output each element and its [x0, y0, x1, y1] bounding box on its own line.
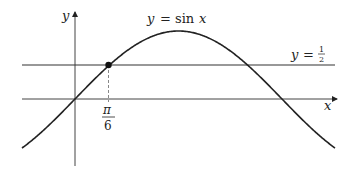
svg-text:=: = [303, 47, 314, 62]
svg-text:π: π [102, 103, 112, 117]
sine-curve [22, 31, 335, 148]
svg-text:x: x [199, 11, 207, 26]
svg-text:y: y [290, 47, 299, 62]
svg-text:1: 1 [319, 45, 324, 54]
intersection-point [105, 62, 111, 68]
curve-label: y = sin x [146, 11, 207, 26]
svg-text:sin: sin [175, 11, 195, 26]
y-axis-label: y [61, 8, 70, 23]
half-line-label: y = 1 2 [290, 45, 325, 64]
svg-text:2: 2 [319, 55, 324, 64]
svg-text:6: 6 [104, 119, 112, 133]
sine-diagram: y x y = sin x y = 1 2 π 6 [0, 0, 357, 174]
x-axis-label: x [324, 98, 332, 113]
tick-label-pi-over-6: π 6 [102, 103, 115, 133]
svg-text:y: y [146, 11, 155, 26]
svg-text:=: = [160, 11, 171, 26]
